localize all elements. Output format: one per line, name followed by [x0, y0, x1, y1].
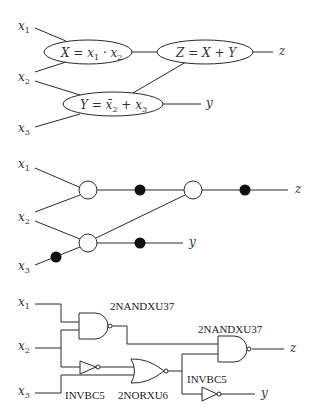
inverter-gate-2: [202, 387, 217, 401]
cell-label-nand1: 2NANDXU37: [110, 300, 175, 312]
inverter-gate-2-bubble: [217, 392, 221, 396]
cell-label-nor: 2NORXU6: [118, 389, 169, 401]
inverter-gate-1: [80, 361, 96, 374]
nor-gate-bubble: [164, 369, 168, 373]
nand-gate-2: [218, 336, 247, 362]
cell-label-inv1: INVBC5: [65, 389, 105, 401]
and-node-1: [79, 181, 97, 199]
output-z-label: z: [294, 182, 302, 196]
node-Z-label: Z = X + Y: [175, 46, 237, 60]
wire-x2-to-X: [35, 62, 66, 72]
input-x1-label: x1: [18, 19, 30, 35]
inverter-dot-3: [135, 238, 146, 249]
wire-x1-to-n1: [35, 168, 79, 187]
input-x1-label: x1: [18, 295, 30, 311]
wire-Y-to-Z: [133, 62, 186, 93]
boolean-network-panel: X = x1 · x2 Z = X + Y Y = x̄2 + x3 x1 x2…: [18, 19, 286, 137]
input-x1-label: x1: [18, 157, 30, 173]
cell-label-inv2: INVBC5: [187, 373, 227, 385]
output-y-label: y: [188, 235, 196, 249]
input-x2-label: x2: [18, 339, 30, 355]
nand-gate-1-bubble: [108, 324, 112, 328]
wire-x2-branches: [61, 330, 80, 367]
output-y-label: y: [260, 386, 268, 400]
cell-label-nand2: 2NANDXU37: [198, 323, 263, 335]
node-X-label: X = x1 · x2: [60, 46, 122, 62]
inverter-gate-1-bubble: [96, 365, 100, 369]
inverter-dot-2: [240, 185, 251, 196]
logic-network-diagram: X = x1 · x2 Z = X + Y Y = x̄2 + x3 x1 x2…: [0, 0, 314, 418]
wire-x1-to-nand1: [35, 304, 79, 322]
wire-x3-to-Y: [35, 114, 80, 127]
and-node-3: [184, 181, 202, 199]
nor-gate: [131, 359, 164, 383]
inverter-dot-1: [135, 185, 146, 196]
wire-n2-to-n3: [96, 195, 185, 238]
nand-gate-2-bubble: [247, 347, 251, 351]
input-x3-label: x3: [18, 121, 30, 137]
input-x2-label: x2: [18, 210, 30, 226]
subject-graph-panel: x1 x2 x3 z y: [18, 157, 302, 275]
nand-gate-1: [79, 313, 108, 339]
input-x3-label: x3: [18, 384, 30, 400]
input-x3-label: x3: [18, 259, 30, 275]
wire-x1-to-X: [35, 28, 66, 41]
gate-netlist-panel: 2NANDXU37 2NANDXU37 INVBC5 2NORXU6 INVBC…: [18, 295, 297, 401]
inverter-dot-4: [51, 252, 62, 263]
output-z-label: z: [289, 341, 297, 355]
wire-x2-to-n1: [35, 195, 80, 212]
wire-x2-to-Y: [35, 81, 80, 95]
output-z-label: z: [278, 44, 286, 58]
input-x2-label: x2: [18, 70, 30, 86]
wire-x2-to-n2: [35, 221, 80, 239]
output-y-label: y: [205, 96, 213, 110]
and-node-2: [79, 234, 97, 252]
